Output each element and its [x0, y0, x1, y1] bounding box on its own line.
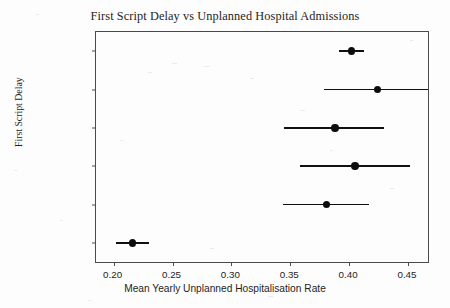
y-axis-tick — [92, 51, 96, 52]
y-axis-tick — [92, 204, 96, 205]
x-axis-tick-label: 0.45 — [397, 269, 416, 280]
chart-figure: First Script Delay vs Unplanned Hospital… — [0, 0, 450, 308]
x-axis-tick-label: 0.25 — [162, 269, 181, 280]
data-point-marker — [331, 124, 338, 131]
x-axis-tick-label: 0.20 — [103, 269, 122, 280]
y-axis-tick — [92, 127, 96, 128]
plot-area — [95, 31, 429, 263]
data-point-marker — [348, 47, 355, 54]
data-point-marker — [374, 86, 381, 93]
y-axis-label: First Script Delay — [13, 77, 24, 147]
plot-inner — [96, 32, 428, 262]
data-point-marker — [351, 162, 358, 169]
x-axis-tick-label: 0.30 — [221, 269, 240, 280]
y-axis-tick — [92, 166, 96, 167]
y-axis-tick — [92, 242, 96, 243]
x-axis-tick-label: 0.40 — [339, 269, 358, 280]
x-axis-tick — [114, 262, 115, 266]
x-axis-tick-label: 0.35 — [280, 269, 299, 280]
data-point-marker — [129, 239, 136, 246]
y-axis-tick — [92, 89, 96, 90]
x-axis-tick — [290, 262, 291, 266]
data-point-marker — [323, 201, 330, 208]
x-axis-tick — [349, 262, 350, 266]
x-axis-tick — [173, 262, 174, 266]
x-axis-tick — [231, 262, 232, 266]
x-axis-label: Mean Yearly Unplanned Hospitalisation Ra… — [0, 283, 450, 294]
chart-title: First Script Delay vs Unplanned Hospital… — [0, 9, 450, 24]
x-axis-tick — [408, 262, 409, 266]
